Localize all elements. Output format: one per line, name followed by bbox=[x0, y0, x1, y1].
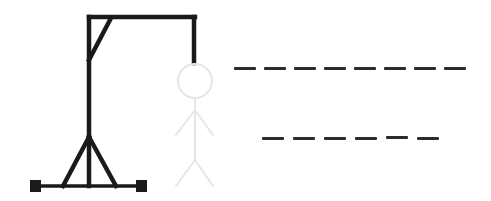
gallows-right-foot bbox=[136, 180, 147, 192]
letter-blank bbox=[294, 67, 316, 70]
letter-blank bbox=[414, 67, 436, 70]
gallows-drawing bbox=[0, 0, 491, 201]
letter-blank bbox=[417, 137, 439, 140]
hangman-figure bbox=[176, 64, 213, 186]
letter-blank bbox=[264, 67, 286, 70]
letter-blank bbox=[444, 67, 466, 70]
gallows-brace bbox=[89, 18, 111, 60]
figure-right-leg bbox=[195, 160, 213, 186]
letter-blank bbox=[324, 137, 346, 140]
word-row-2 bbox=[262, 137, 439, 140]
letter-blank bbox=[354, 67, 376, 70]
figure-left-arm bbox=[176, 110, 195, 135]
gallows-left-foot bbox=[30, 180, 41, 192]
gallows-right-strut bbox=[89, 137, 116, 186]
letter-blank bbox=[262, 137, 284, 140]
gallows-left-strut bbox=[63, 137, 89, 186]
hangman-game bbox=[0, 0, 491, 201]
letter-blank bbox=[324, 67, 346, 70]
figure-head bbox=[178, 64, 212, 98]
figure-right-arm bbox=[195, 110, 213, 135]
letter-blank bbox=[355, 137, 377, 140]
letter-blank bbox=[384, 67, 406, 70]
letter-blank bbox=[293, 137, 315, 140]
letter-blank bbox=[386, 136, 408, 139]
letter-blank bbox=[234, 67, 256, 70]
gallows bbox=[36, 17, 195, 186]
word-row-1 bbox=[234, 67, 466, 70]
figure-left-leg bbox=[176, 160, 195, 186]
